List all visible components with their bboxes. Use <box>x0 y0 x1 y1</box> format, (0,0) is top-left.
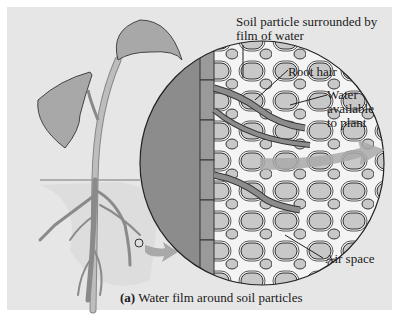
soil-water-diagram <box>0 0 399 318</box>
label-water-line3: to plant <box>327 116 374 130</box>
caption-text: Water film around soil particles <box>135 290 302 305</box>
label-water-line1: Water <box>327 88 374 102</box>
label-air-space: Air space <box>325 252 374 266</box>
figure-caption: (a) Water film around soil particles <box>120 290 302 306</box>
label-soil-particle: Soil particle surrounded by film of wate… <box>236 15 377 43</box>
label-water-available: Water available to plant <box>327 88 374 130</box>
upper-leaf <box>116 20 182 60</box>
label-soil-particle-line1: Soil particle surrounded by <box>236 15 377 29</box>
label-root-hair: Root hair <box>288 65 337 79</box>
label-soil-particle-line2: film of water <box>236 29 377 43</box>
left-leaf <box>38 72 92 148</box>
label-water-line2: available <box>327 102 374 116</box>
caption-prefix: (a) <box>120 290 135 305</box>
